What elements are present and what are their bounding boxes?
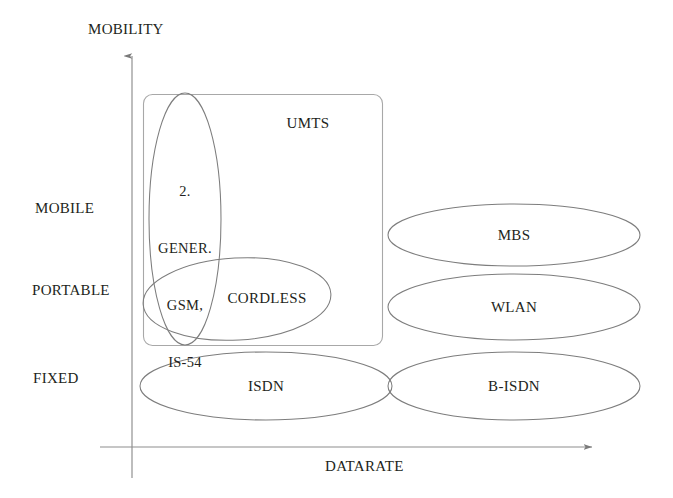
second-generation-label-line-4: IS-54: [145, 353, 225, 372]
x-axis-title: DATARATE: [325, 458, 404, 475]
y-tick-fixed: FIXED: [33, 370, 79, 387]
diagram-vector-layer: [0, 0, 673, 498]
y-tick-mobile: MOBILE: [35, 200, 94, 217]
diagram-canvas: MOBILITY DATARATE MOBILE PORTABLE FIXED …: [0, 0, 673, 498]
second-generation-label: 2. GENER. GSM, IS-54: [145, 144, 225, 410]
cordless-label: CORDLESS: [212, 290, 322, 307]
second-generation-label-line-2: GENER.: [145, 239, 225, 258]
y-axis-title: MOBILITY: [88, 21, 164, 38]
mbs-label: MBS: [474, 227, 554, 244]
bisdn-label: B-ISDN: [474, 378, 554, 395]
isdn-label: ISDN: [226, 378, 306, 395]
y-tick-portable: PORTABLE: [32, 282, 110, 299]
wlan-label: WLAN: [474, 299, 554, 316]
second-generation-label-line-1: 2.: [145, 182, 225, 201]
umts-label: UMTS: [268, 115, 348, 132]
